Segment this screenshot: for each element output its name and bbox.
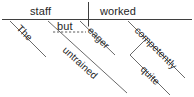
label-subject: staff xyxy=(30,5,52,17)
label-adjective-eager: eager xyxy=(86,25,113,52)
sentence-diagram: staff worked but The untrained eager com… xyxy=(0,0,194,97)
label-verb: worked xyxy=(99,5,136,17)
label-conjunction: but xyxy=(57,20,73,32)
label-article-the: The xyxy=(15,23,35,43)
diagram-canvas: staff worked but The untrained eager com… xyxy=(0,0,194,97)
